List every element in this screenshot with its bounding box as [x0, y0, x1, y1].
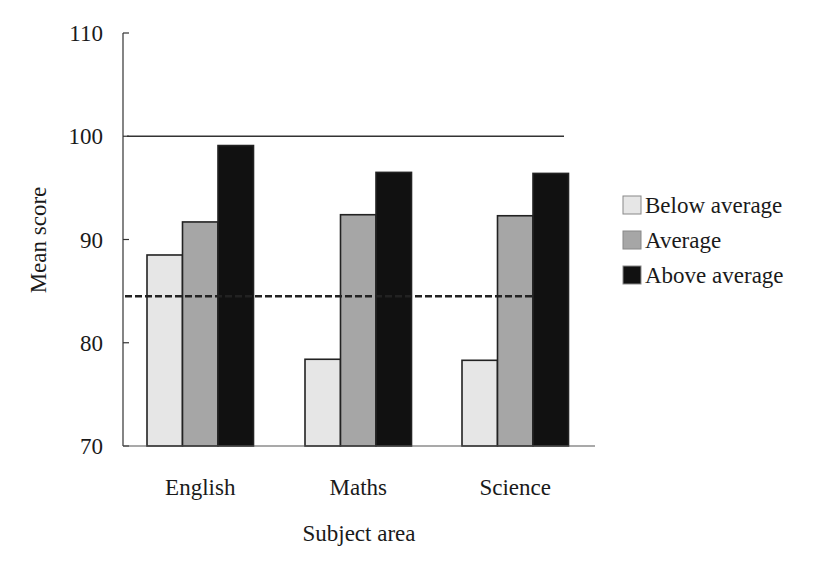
bar-average — [498, 216, 534, 446]
legend-item-above-average: Above average — [623, 263, 784, 288]
legend-label: Above average — [645, 263, 784, 288]
legend: Below averageAverageAbove average — [623, 193, 784, 288]
y-tick-label: 110 — [69, 21, 103, 46]
x-axis-title: Subject area — [302, 521, 415, 546]
legend-label: Average — [645, 228, 721, 253]
bar-average — [341, 215, 377, 446]
bar-below-average — [147, 255, 183, 446]
x-tick-label: Maths — [330, 475, 388, 500]
legend-swatch — [623, 231, 641, 249]
bar-average — [183, 222, 219, 446]
bar-below-average — [462, 360, 498, 446]
bar-chart: 708090100110 EnglishMathsScience Subject… — [0, 0, 829, 571]
legend-item-average: Average — [623, 228, 721, 253]
y-axis-title: Mean score — [26, 187, 51, 294]
x-tick-label: Science — [479, 475, 551, 500]
legend-swatch — [623, 266, 641, 284]
bar-group-science — [462, 173, 569, 446]
bar-above-average — [533, 173, 569, 446]
legend-swatch — [623, 196, 641, 214]
x-tick-label: English — [165, 475, 236, 500]
bar-below-average — [305, 359, 341, 446]
legend-item-below-average: Below average — [623, 193, 782, 218]
y-tick-label: 80 — [80, 331, 103, 356]
x-axis: EnglishMathsScience — [123, 446, 595, 500]
bar-above-average — [376, 172, 412, 446]
bar-group-maths — [305, 172, 412, 446]
y-axis: 708090100110 — [69, 21, 130, 459]
y-tick-label: 100 — [69, 124, 104, 149]
y-tick-label: 90 — [80, 228, 103, 253]
y-tick-label: 70 — [80, 434, 103, 459]
legend-label: Below average — [645, 193, 782, 218]
